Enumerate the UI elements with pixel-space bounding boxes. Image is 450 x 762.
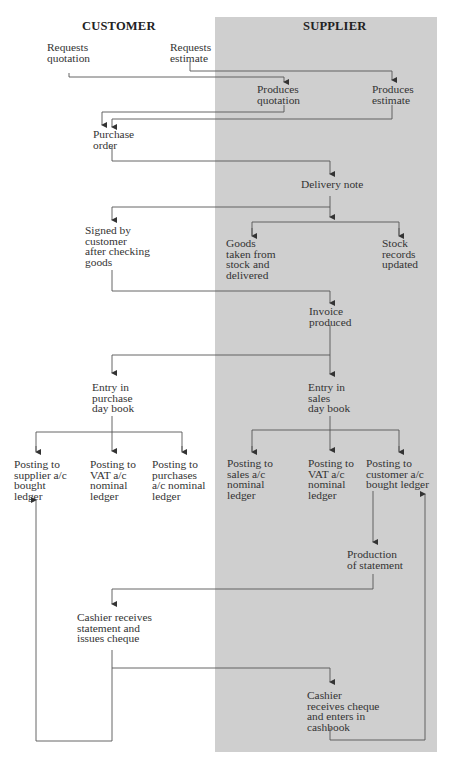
node-posting-sales-nominal-ledger: Posting to sales a/c nominal ledger — [227, 458, 273, 500]
node-cashier-receives-cheque: Cashier receives cheque and enters in ca… — [307, 690, 379, 732]
node-posting-vat-supplier: Posting to VAT a/c nominal ledger — [308, 458, 354, 500]
node-produces-quotation: Produces quotation — [257, 84, 300, 105]
node-goods-taken-from-stock: Goods taken from stock and delivered — [226, 238, 276, 280]
node-invoice-produced: Invoice produced — [309, 306, 351, 327]
node-posting-purchases-nominal-ledger: Posting to purchases a/c nominal ledger — [152, 459, 205, 501]
node-posting-supplier-bought-ledger: Posting to supplier a/c bought ledger — [14, 459, 67, 501]
node-posting-customer-bought-ledger: Posting to customer a/c bought ledger — [366, 458, 429, 490]
node-signed-by-customer: Signed by customer after checking goods — [85, 225, 150, 267]
node-production-of-statement: Production of statement — [347, 549, 403, 570]
node-stock-records-updated: Stock records updated — [382, 238, 418, 270]
node-purchase-order: Purchase order — [93, 129, 134, 150]
node-requests-estimate: Requests estimate — [170, 42, 211, 63]
node-requests-quotation: Requests quotation — [47, 42, 90, 63]
node-cashier-issues-cheque: Cashier receives statement and issues ch… — [77, 612, 152, 644]
node-entry-purchase-day-book: Entry in purchase day book — [92, 382, 134, 414]
node-delivery-note: Delivery note — [301, 179, 363, 190]
node-produces-estimate: Produces estimate — [372, 84, 414, 105]
node-posting-vat-customer: Posting to VAT a/c nominal ledger — [90, 459, 136, 501]
node-entry-sales-day-book: Entry in sales day book — [308, 382, 350, 414]
flow-connectors — [0, 0, 450, 762]
